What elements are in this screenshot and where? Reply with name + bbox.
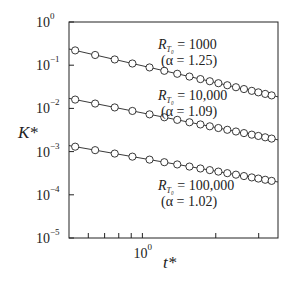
data-point (186, 119, 193, 126)
x-axis-label: t* (163, 253, 177, 272)
data-point (111, 150, 118, 157)
data-point (186, 73, 193, 80)
data-point (268, 135, 275, 142)
data-point (206, 167, 213, 174)
data-point (268, 177, 275, 184)
y-axis-ticks: 10010−110−210−310−410−5 (36, 11, 74, 246)
data-point (215, 80, 222, 87)
chart: 10010−110−210−310−410−5 100 RT₀ = 1000(α… (0, 0, 290, 286)
data-point (262, 90, 269, 97)
data-point (129, 107, 136, 114)
data-point (262, 134, 269, 141)
data-point (146, 111, 153, 118)
data-point (215, 124, 222, 131)
data-point (111, 104, 118, 111)
data-point (92, 100, 99, 107)
data-point (197, 165, 204, 172)
data-point (174, 161, 181, 168)
data-point (92, 51, 99, 58)
data-point (215, 168, 222, 175)
series-annotation-label: RT₀ = 10,000 (157, 88, 227, 105)
data-point (129, 60, 136, 67)
y-tick-label: 10−1 (36, 54, 60, 73)
data-point (268, 92, 275, 99)
data-point (255, 132, 262, 139)
series-annotation-alpha: (α = 1.09) (161, 104, 217, 120)
series-annotation-label: RT₀ = 1000 (157, 37, 217, 54)
data-point (255, 89, 262, 96)
data-point (197, 121, 204, 128)
y-tick-label: 10−5 (36, 227, 60, 246)
data-point (224, 126, 231, 133)
data-point (129, 153, 136, 160)
data-point (146, 156, 153, 163)
data-point (92, 147, 99, 154)
y-tick-label: 10−3 (36, 141, 60, 160)
y-tick-label: 100 (36, 11, 55, 30)
data-point (146, 64, 153, 71)
data-point (232, 128, 239, 135)
data-point (248, 174, 255, 181)
data-point (248, 87, 255, 94)
data-point (72, 96, 79, 103)
data-point (255, 175, 262, 182)
data-point (240, 85, 247, 92)
data-point (240, 172, 247, 179)
series-annotation-alpha: (α = 1.25) (161, 53, 217, 69)
data-point (197, 75, 204, 82)
data-point (161, 159, 168, 166)
data-point (248, 131, 255, 138)
y-tick-label: 10−4 (36, 184, 60, 203)
data-point (232, 84, 239, 91)
data-point (206, 78, 213, 85)
series-annotation-label: RT₀ = 100,000 (157, 178, 234, 195)
data-point (240, 129, 247, 136)
data-point (161, 67, 168, 74)
data-point (72, 47, 79, 54)
y-tick-label: 10−2 (36, 97, 60, 116)
data-point (262, 176, 269, 183)
data-point (186, 163, 193, 170)
y-axis-label: K* (17, 123, 38, 142)
x-tick-label: 100 (133, 242, 152, 261)
data-point (111, 56, 118, 63)
data-point (224, 170, 231, 177)
data-point (174, 70, 181, 77)
data-point (72, 143, 79, 150)
data-point (206, 123, 213, 130)
series-annotation-alpha: (α = 1.02) (161, 194, 217, 210)
